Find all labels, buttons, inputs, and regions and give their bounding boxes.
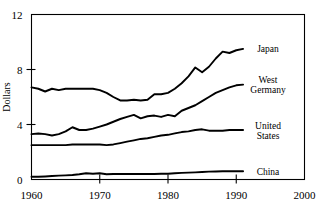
series-line-west-germany (32, 85, 244, 136)
series-line-china (32, 171, 244, 177)
y-axis-title: Dollars (1, 82, 12, 112)
y-axis-tick-labels: 04812 (12, 9, 24, 186)
y-tick-label-8: 8 (17, 64, 23, 76)
x-axis-tick-labels: 19601970198019902000 (21, 189, 317, 201)
line-chart: 04812 19601970198019902000 JapanWestGerm… (0, 0, 320, 211)
x-tick-label-2000: 2000 (294, 189, 317, 201)
series-label-china: China (257, 167, 280, 177)
y-tick-label-12: 12 (12, 9, 23, 21)
y-tick-label-4: 4 (17, 119, 23, 131)
data-series-group (32, 49, 244, 177)
series-labels-group: JapanWestGermanyUnitedStatesChina (250, 44, 286, 176)
series-label-japan: Japan (257, 44, 279, 54)
series-label-west-germany: WestGermany (250, 75, 286, 95)
x-tick-label-1970: 1970 (89, 189, 112, 201)
x-tick-label-1980: 1980 (157, 189, 180, 201)
series-label-united-states: UnitedStates (255, 121, 281, 141)
plot-frame (32, 15, 305, 180)
y-tick-label-0: 0 (17, 174, 23, 186)
x-tick-label-1990: 1990 (225, 189, 248, 201)
series-line-japan (32, 49, 244, 101)
x-tick-label-1960: 1960 (21, 189, 44, 201)
chart-canvas: 04812 19601970198019902000 JapanWestGerm… (0, 0, 320, 211)
